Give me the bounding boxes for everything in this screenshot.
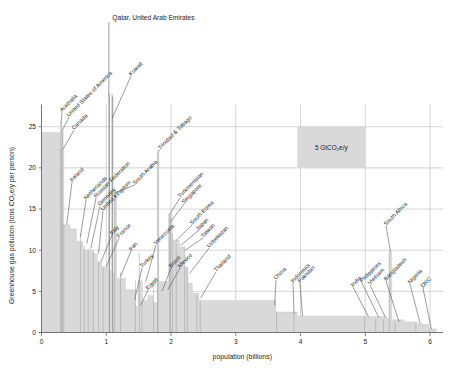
reference-area-box: 5 GtCO₂e/y <box>297 127 365 168</box>
greenhouse-gas-vs-population-chart: 5 GtCO₂e/y 05101520250123456 AustraliaUn… <box>0 0 451 379</box>
x-tick-label: 3 <box>234 338 238 345</box>
chart-figure: 5 GtCO₂e/y 05101520250123456 AustraliaUn… <box>0 0 451 379</box>
offscale-spike <box>112 97 113 333</box>
y-axis-title: Greenhouse gas pollution (tons CO₂e/y pe… <box>8 147 16 304</box>
x-axis-title: population (billions) <box>213 353 272 361</box>
reference-area-label: 5 GtCO₂e/y <box>315 144 348 152</box>
y-tick-label: 5 <box>32 288 36 295</box>
y-tick-label: 10 <box>29 247 37 254</box>
x-tick-label: 2 <box>169 338 173 345</box>
y-tick-label: 25 <box>29 123 37 130</box>
y-tick-label: 20 <box>29 164 37 171</box>
y-tick-label: 15 <box>29 205 37 212</box>
x-tick-label: 0 <box>40 338 44 345</box>
x-tick-label: 4 <box>299 338 303 345</box>
x-tick-label: 5 <box>363 338 367 345</box>
x-tick-label: 6 <box>428 338 432 345</box>
y-tick-label: 0 <box>32 329 36 336</box>
offscale-spike <box>109 97 110 333</box>
x-tick-label: 1 <box>104 338 108 345</box>
qatar-uae-annotation-label: Qatar, United Arab Emirates <box>112 14 195 22</box>
